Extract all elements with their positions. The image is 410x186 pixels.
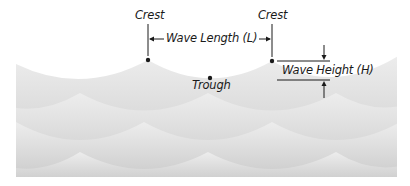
trough-label: Trough: [192, 80, 231, 92]
crest-right-dot: [270, 59, 274, 63]
wave-height-label: Wave Height (H): [282, 65, 374, 77]
crest-left-label: Crest: [135, 10, 164, 22]
bottom-margin: [0, 177, 410, 186]
crest-right-label: Crest: [258, 10, 287, 22]
wave-diagram: [0, 0, 410, 186]
wave-length-label: Wave Length (L): [164, 33, 259, 45]
crest-left-dot: [146, 58, 150, 62]
